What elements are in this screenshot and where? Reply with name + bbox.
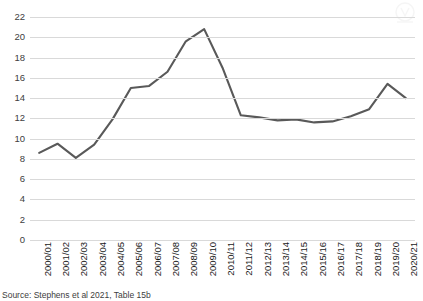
x-tick-label: 2020/21: [409, 242, 419, 276]
x-tick-label: 2003/04: [98, 242, 108, 276]
y-tick-label: 4: [20, 195, 25, 205]
gridline: [30, 139, 415, 140]
x-tick-label: 2013/14: [281, 242, 291, 276]
x-tick-label: 2010/11: [226, 242, 236, 276]
x-tick-label: 2014/15: [299, 242, 309, 276]
data-series-line: [30, 17, 415, 240]
source-note: Source: Stephens et al 2021, Table 15b: [2, 291, 151, 300]
y-tick-label: 18: [14, 53, 25, 63]
gridline: [30, 220, 415, 221]
y-tick-label: 22: [14, 12, 25, 22]
gridline: [30, 118, 415, 119]
y-tick-label: 2: [20, 215, 25, 225]
x-tick-label: 2005/06: [134, 242, 144, 276]
line-chart-figure: 0246810121416182022 2000/012001/022002/0…: [0, 0, 423, 301]
y-tick-label: 16: [14, 73, 25, 83]
x-tick-label: 2012/13: [263, 242, 273, 276]
y-tick-label: 10: [14, 134, 25, 144]
gridline: [30, 199, 415, 200]
gridline: [30, 78, 415, 79]
gridline: [30, 179, 415, 180]
gridline: [30, 240, 415, 241]
gridline: [30, 159, 415, 160]
x-tick-label: 2017/18: [354, 242, 364, 276]
x-tick-label: 2000/01: [43, 242, 53, 276]
y-tick-label: 6: [20, 174, 25, 184]
plot-area: [30, 17, 415, 240]
y-tick-label: 14: [14, 93, 25, 103]
x-tick-label: 2001/02: [61, 242, 71, 276]
y-tick-label: 20: [14, 33, 25, 43]
gridline: [30, 37, 415, 38]
y-axis: 0246810121416182022: [0, 0, 30, 240]
y-tick-label: 12: [14, 114, 25, 124]
x-tick-label: 2019/20: [391, 242, 401, 276]
x-tick-label: 2008/09: [189, 242, 199, 276]
gridline: [30, 58, 415, 59]
x-tick-label: 2007/08: [171, 242, 181, 276]
y-tick-label: 0: [20, 235, 25, 245]
x-tick-label: 2002/03: [79, 242, 89, 276]
x-tick-label: 2011/12: [244, 242, 254, 276]
x-axis: 2000/012001/022002/032003/042004/052005/…: [30, 242, 415, 290]
x-tick-label: 2015/16: [318, 242, 328, 276]
x-tick-label: 2004/05: [116, 242, 126, 276]
gridline: [30, 17, 415, 18]
x-tick-label: 2009/10: [208, 242, 218, 276]
x-tick-label: 2006/07: [153, 242, 163, 276]
y-tick-label: 8: [20, 154, 25, 164]
x-tick-label: 2016/17: [336, 242, 346, 276]
gridline: [30, 98, 415, 99]
x-tick-label: 2018/19: [373, 242, 383, 276]
